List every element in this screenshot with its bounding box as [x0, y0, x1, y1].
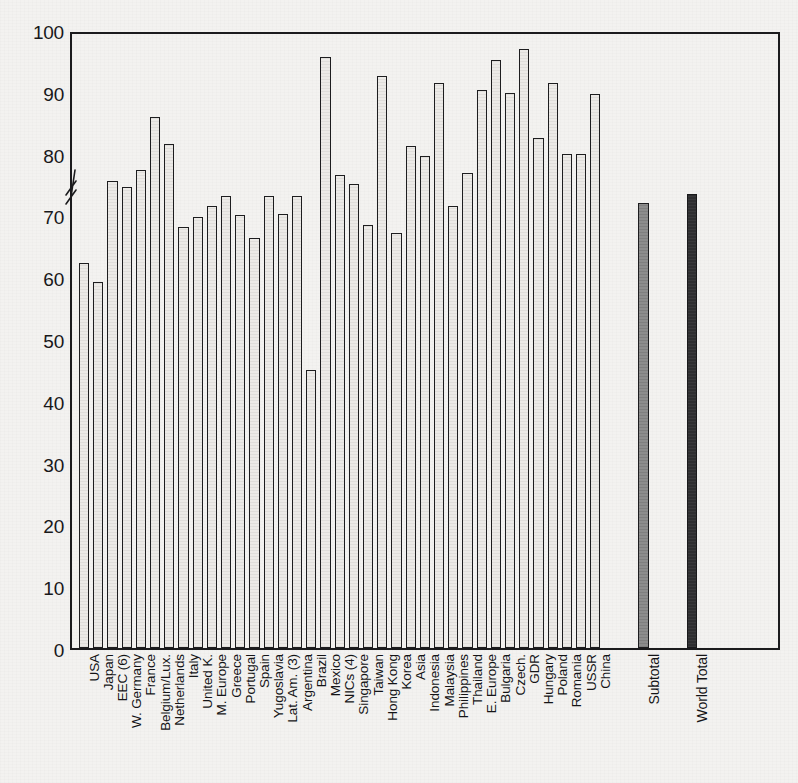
x-tick-label: Taiwan	[372, 654, 386, 695]
bar-portugal	[235, 215, 245, 648]
bar-spain	[249, 238, 259, 648]
bar-bulgaria	[491, 60, 501, 648]
x-tick-label: Italy	[187, 654, 201, 678]
bar-e-europe	[477, 90, 487, 648]
y-tick-label: 80	[8, 147, 64, 166]
x-tick-label: NICs (4)	[343, 654, 357, 703]
x-tick-label: France	[144, 654, 158, 695]
y-tick-label: 30	[8, 456, 64, 475]
bar-hungary	[533, 138, 543, 648]
y-tick-label: 70	[8, 208, 64, 227]
x-tick-label: Bulgaria	[499, 654, 513, 703]
plot-area	[70, 32, 780, 650]
x-tick-label: Japan	[102, 654, 116, 690]
y-tick-label: 20	[8, 517, 64, 536]
x-tick-label: World Total	[695, 654, 709, 722]
x-tick-label: Argentina	[301, 654, 315, 711]
x-tick-label: United K.	[201, 654, 215, 709]
bar-france	[136, 170, 146, 648]
bar-eec-6	[107, 181, 117, 648]
y-tick-label: 90	[8, 85, 64, 104]
bar-mexico	[320, 57, 330, 648]
bar-singapore	[349, 184, 359, 648]
bar-belgium-lux	[150, 117, 160, 648]
bar-philippines	[448, 206, 458, 648]
y-axis: 0102030405060708090100	[8, 0, 64, 783]
bar-gdr	[519, 49, 529, 648]
x-tick-label: Greece	[230, 654, 244, 698]
bar-asia	[406, 146, 416, 648]
bar-italy	[178, 227, 188, 648]
x-tick-label: GDR	[528, 654, 542, 684]
bar-m-europe	[207, 206, 217, 648]
bar-subtotal	[638, 203, 648, 648]
y-tick-label: 0	[8, 641, 64, 660]
bar-greece	[221, 196, 231, 648]
x-tick-label: Belgium/Lux.	[159, 654, 173, 731]
bar-malaysia	[434, 83, 444, 648]
x-tick-label: Subtotal	[647, 654, 661, 705]
x-tick-label: Brazil	[315, 654, 329, 687]
x-tick-label: Hungary	[542, 654, 556, 704]
bar-thailand	[462, 173, 472, 648]
x-tick-label: Asia	[414, 654, 428, 680]
x-tick-label: China	[599, 654, 613, 689]
x-tick-label: Malaysia	[443, 654, 457, 706]
bar-brazil	[306, 370, 316, 648]
x-tick-label: Portugal	[244, 654, 258, 703]
x-tick-label: Lat. Am. (3)	[286, 654, 300, 723]
x-tick-label: Spain	[258, 654, 272, 688]
x-tick-label: Poland	[556, 654, 570, 695]
x-tick-label: EEC (6)	[116, 654, 130, 701]
y-tick-label: 40	[8, 394, 64, 413]
bar-korea	[391, 233, 401, 648]
bar-chart-figure: 0102030405060708090100 USAJapanEEC (6)W.…	[0, 0, 798, 783]
x-tick-label: Thailand	[471, 654, 485, 705]
x-tick-label: Mexico	[329, 654, 343, 696]
x-tick-label: USA	[88, 654, 102, 681]
bar-lat-am-3	[278, 214, 288, 648]
bar-czech	[505, 93, 515, 648]
bar-indonesia	[420, 156, 430, 648]
x-tick-label: USSR	[585, 654, 599, 691]
y-tick-label: 10	[8, 579, 64, 598]
bar-usa	[79, 263, 89, 648]
y-tick-label: 50	[8, 332, 64, 351]
x-tick-label: Korea	[400, 654, 414, 690]
bars-container	[72, 34, 778, 648]
x-tick-label: Hong Kong	[386, 654, 400, 721]
x-tick-label: M. Europe	[215, 654, 229, 715]
y-tick-label: 60	[8, 270, 64, 289]
bar-hong-kong	[377, 76, 387, 648]
bar-w-germany	[122, 187, 132, 648]
bar-poland	[548, 83, 558, 648]
x-tick-label: Romania	[570, 654, 584, 707]
x-tick-label: Philippines	[457, 654, 471, 718]
x-tick-label: Czech.	[514, 654, 528, 695]
x-tick-label: Indonesia	[428, 654, 442, 712]
bar-nics-4	[335, 175, 345, 648]
bar-world-total	[687, 194, 697, 648]
bar-yugoslavia	[264, 196, 274, 648]
bar-japan	[93, 282, 103, 648]
x-tick-label: Singapore	[357, 654, 371, 715]
bar-netherlands	[164, 144, 174, 648]
x-tick-label: Netherlands	[173, 654, 187, 726]
bar-taiwan	[363, 225, 373, 648]
y-tick-label: 100	[8, 23, 64, 42]
x-tick-label: E. Europe	[485, 654, 499, 713]
x-axis: USAJapanEEC (6)W. GermanyFranceBelgium/L…	[70, 652, 780, 783]
bar-romania	[562, 154, 572, 648]
bar-united-k	[193, 217, 203, 648]
bar-argentina	[292, 196, 302, 648]
x-tick-label: W. Germany	[130, 654, 144, 728]
bar-china	[590, 94, 600, 648]
x-tick-label: Yugoslavia	[272, 654, 286, 718]
bar-ussr	[576, 154, 586, 648]
